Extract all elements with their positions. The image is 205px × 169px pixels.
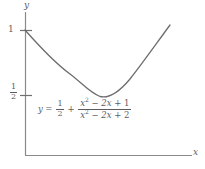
y-tick-label-one: 1 — [8, 25, 14, 34]
equation-equals: = — [45, 105, 52, 114]
numerator-constant: 1 — [124, 98, 129, 108]
half-fraction: 1 2 — [10, 83, 17, 102]
rational-numerator: x2 − 2x + 1 — [78, 99, 131, 108]
numerator-plus: + — [114, 98, 121, 108]
constant-denominator: 2 — [56, 110, 64, 118]
half-numerator: 1 — [10, 83, 17, 91]
denominator-minus: − — [91, 110, 98, 120]
denominator-2x: 2x — [101, 110, 111, 120]
rational-fraction: x2 − 2x + 1 x2 − 2x + 2 — [78, 99, 131, 119]
constant-numerator: 1 — [56, 100, 64, 108]
constant-fraction: 1 2 — [56, 100, 64, 118]
graph-figure: y x 1 1 2 y = 1 2 + x2 − 2x + 1 — [0, 0, 205, 169]
denominator-x-exponent: 2 — [85, 108, 89, 115]
equation-lhs: y — [38, 105, 43, 114]
x-axis-label: x — [193, 148, 198, 157]
numerator-x-exponent: 2 — [85, 96, 89, 103]
y-axis-label: y — [24, 1, 29, 10]
numerator-minus: − — [91, 98, 98, 108]
plot-canvas — [0, 0, 205, 169]
denominator-plus: + — [114, 110, 121, 120]
half-denominator: 2 — [10, 93, 17, 101]
denominator-constant: 2 — [124, 110, 129, 120]
numerator-2x: 2x — [101, 98, 111, 108]
function-curve — [25, 25, 170, 97]
equation-plus: + — [68, 105, 75, 114]
equation-annotation: y = 1 2 + x2 − 2x + 1 x2 − 2x + 2 — [38, 99, 132, 119]
y-tick-label-half: 1 2 — [7, 83, 20, 102]
rational-denominator: x2 − 2x + 2 — [78, 111, 131, 120]
